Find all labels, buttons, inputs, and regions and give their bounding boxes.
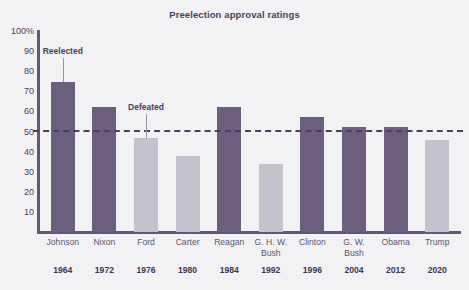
annotation-leader-line-defeated — [146, 114, 147, 138]
x-label-name-2004-line1: G. W. — [333, 237, 375, 248]
x-label-group-1996: Clinton1996 — [292, 237, 334, 248]
x-label-name-2004-line2: Bush — [333, 248, 375, 259]
x-label-group-1984: Reagan1984 — [208, 237, 250, 248]
x-label-year-2020: 2020 — [416, 265, 458, 275]
x-label-name-1996: Clinton — [292, 237, 334, 248]
x-label-name-2020: Trump — [416, 237, 458, 248]
x-label-year-1992: 1992 — [250, 265, 292, 275]
bars-layer — [0, 0, 469, 232]
bar-carter[interactable] — [176, 156, 200, 232]
bar-ford[interactable] — [134, 138, 158, 232]
x-label-group-2004: G. W.Bush2004 — [333, 237, 375, 258]
x-label-year-1976: 1976 — [125, 265, 167, 275]
x-label-year-1980: 1980 — [167, 265, 209, 275]
x-label-group-1964: Johnson1964 — [42, 237, 84, 248]
bar-nixon[interactable] — [92, 107, 116, 232]
x-label-name-1972: Nixon — [84, 237, 126, 248]
annotation-label-reelected: Reelected — [43, 46, 83, 56]
bar-reagan[interactable] — [217, 107, 241, 232]
x-label-year-2004: 2004 — [333, 265, 375, 275]
x-label-name-1984: Reagan — [208, 237, 250, 248]
x-axis-category-labels: Johnson1964Nixon1972Ford1976Carter1980Re… — [0, 237, 469, 287]
x-label-group-1976: Ford1976 — [125, 237, 167, 248]
x-label-group-1992: G. H. W.Bush1992 — [250, 237, 292, 258]
annotation-leader-line-reelected — [63, 58, 64, 82]
approval-ratings-chart: Preelection approval ratings 100%9080706… — [0, 0, 469, 290]
x-label-name-1976: Ford — [125, 237, 167, 248]
annotation-label-defeated: Defeated — [128, 102, 164, 112]
reference-line-50-percent — [33, 130, 463, 132]
x-label-group-2020: Trump2020 — [416, 237, 458, 248]
bar-johnson[interactable] — [51, 82, 75, 232]
bar-obama[interactable] — [384, 127, 408, 232]
bar-trump[interactable] — [425, 140, 449, 232]
bar-clinton[interactable] — [300, 117, 324, 232]
bar-g-h-w-bush[interactable] — [259, 164, 283, 232]
x-label-year-1964: 1964 — [42, 265, 84, 275]
bar-g-w-bush[interactable] — [342, 127, 366, 232]
x-label-year-1996: 1996 — [292, 265, 334, 275]
x-label-name-1980: Carter — [167, 237, 209, 248]
x-label-name-1992-line1: G. H. W. — [250, 237, 292, 248]
x-label-name-1964: Johnson — [42, 237, 84, 248]
x-label-name-1992-line2: Bush — [250, 248, 292, 259]
x-label-group-1980: Carter1980 — [167, 237, 209, 248]
x-label-name-2012: Obama — [375, 237, 417, 248]
x-label-year-1972: 1972 — [84, 265, 126, 275]
x-label-year-2012: 2012 — [375, 265, 417, 275]
x-label-group-2012: Obama2012 — [375, 237, 417, 248]
x-label-year-1984: 1984 — [208, 265, 250, 275]
x-label-group-1972: Nixon1972 — [84, 237, 126, 248]
